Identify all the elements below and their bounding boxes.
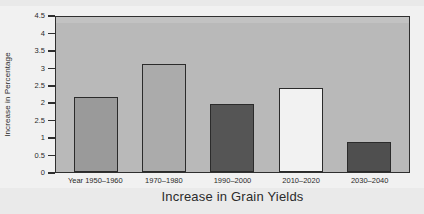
x-axis-title: Increase in Grain Yields bbox=[55, 189, 410, 204]
y-axis-tick-label: 2.5 bbox=[35, 82, 45, 90]
y-axis-tick-mark bbox=[48, 102, 55, 104]
y-axis-tick-label: 0.5 bbox=[35, 151, 45, 159]
y-axis-tick-mark bbox=[48, 172, 55, 174]
x-axis-tick-labels: Year 1950–19601970–19801990–20002010–202… bbox=[55, 176, 410, 185]
y-axis-tick-label: 3.5 bbox=[35, 47, 45, 55]
y-axis-tick-label: 0 bbox=[41, 169, 45, 177]
bar bbox=[74, 97, 118, 172]
y-axis: 4.543.532.522.510.50 bbox=[0, 16, 55, 173]
y-axis-tick-mark bbox=[48, 85, 55, 87]
x-axis-tick-label: 2010–2020 bbox=[267, 176, 335, 185]
bar bbox=[142, 64, 186, 172]
y-axis-tick-mark bbox=[48, 120, 55, 122]
y-axis-tick-mark bbox=[48, 155, 55, 157]
y-axis-tick-label: 4.5 bbox=[35, 12, 45, 20]
y-axis-tick-label: 4 bbox=[41, 29, 45, 37]
y-axis-tick-label: 3 bbox=[41, 64, 45, 72]
x-axis-tick-label: 1970–1980 bbox=[130, 176, 198, 185]
bar bbox=[210, 104, 254, 172]
bars-group bbox=[56, 17, 409, 172]
bar bbox=[347, 142, 391, 172]
y-axis-tick-label: 2.5 bbox=[35, 116, 45, 124]
x-axis-tick-label: 1990–2000 bbox=[198, 176, 266, 185]
y-axis-tick-mark bbox=[48, 15, 55, 17]
plot-area bbox=[55, 16, 410, 173]
x-axis-tick-label: 2030–2040 bbox=[336, 176, 404, 185]
x-axis-tick-label: Year 1950–1960 bbox=[61, 176, 129, 185]
y-axis-tick-mark bbox=[48, 50, 55, 52]
y-axis-tick-mark bbox=[48, 33, 55, 35]
y-axis-tick-mark bbox=[48, 137, 55, 139]
y-axis-tick-label: 2 bbox=[41, 99, 45, 107]
bar bbox=[279, 88, 323, 172]
y-axis-tick-mark bbox=[48, 68, 55, 70]
y-axis-tick-label: 1 bbox=[41, 134, 45, 142]
chart-figure: Increase in Percentage 4.543.532.522.510… bbox=[0, 0, 424, 214]
